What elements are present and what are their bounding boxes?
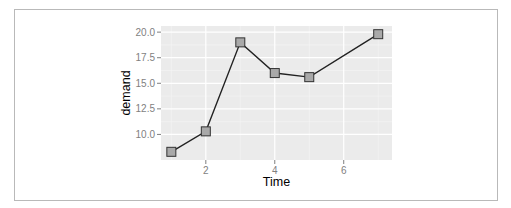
plot-panel — [161, 26, 392, 160]
line-chart: 10.012.515.017.520.0246Timedemand — [0, 0, 511, 208]
y-tick-label: 10.0 — [136, 129, 156, 140]
y-tick-label: 15.0 — [136, 78, 156, 89]
data-point-marker — [236, 38, 245, 47]
data-point-marker — [201, 127, 210, 136]
x-tick-label: 6 — [341, 165, 347, 176]
data-point-marker — [270, 69, 279, 78]
data-point-marker — [374, 30, 383, 39]
data-point-marker — [305, 73, 314, 82]
data-point-marker — [167, 147, 176, 156]
y-tick-label: 12.5 — [136, 103, 156, 114]
y-tick-label: 20.0 — [136, 27, 156, 38]
y-tick-label: 17.5 — [136, 52, 156, 63]
x-axis-title: Time — [263, 175, 290, 189]
x-tick-label: 2 — [203, 165, 209, 176]
y-axis-title: demand — [119, 70, 133, 115]
